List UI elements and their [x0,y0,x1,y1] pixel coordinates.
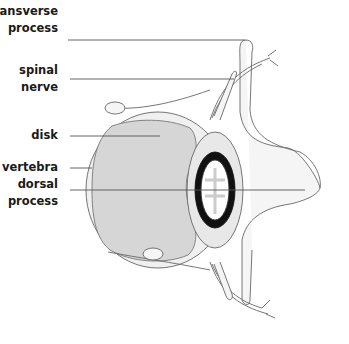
dorsal-process-shape [240,40,320,305]
disk-shape [92,120,196,261]
vertebra-diagram [0,0,349,344]
